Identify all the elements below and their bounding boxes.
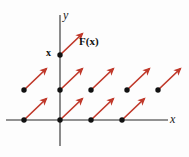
- base-point-dot: [119, 117, 124, 122]
- field-vector-arrow: [60, 69, 82, 90]
- field-vector-arrow: [122, 99, 144, 120]
- field-vector-arrow: [127, 69, 149, 90]
- figure-canvas: [0, 0, 189, 157]
- base-point-dot: [155, 87, 160, 92]
- base-point-dot: [88, 117, 93, 122]
- vector-field-figure: y x x F(x): [0, 0, 189, 157]
- base-point-dot: [57, 117, 62, 122]
- vector-field-label: F(x): [79, 36, 99, 47]
- field-vector-arrow: [24, 99, 46, 120]
- field-vector-arrow: [91, 99, 113, 120]
- base-point-dot: [57, 87, 62, 92]
- base-point-dot: [21, 117, 26, 122]
- base-point-dot: [21, 87, 26, 92]
- base-point-dot: [88, 87, 93, 92]
- base-point-dot: [124, 87, 129, 92]
- y-axis-label: y: [63, 9, 68, 21]
- field-vector-arrow: [60, 99, 82, 120]
- x-axis-label: x: [170, 113, 175, 125]
- field-vector-arrow: [158, 69, 180, 90]
- dots-group: [21, 52, 160, 122]
- field-vector-arrow: [24, 69, 46, 90]
- base-point-dot: [57, 52, 62, 57]
- point-label-x: x: [46, 48, 51, 58]
- field-vector-arrow: [91, 69, 113, 90]
